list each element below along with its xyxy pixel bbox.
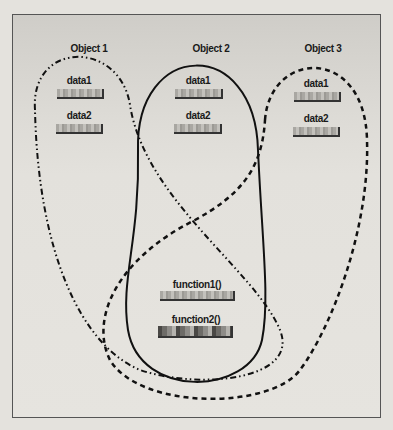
function2-label: function2() [172,314,220,325]
object3-data1-slot [294,92,341,102]
function2-slot [158,326,233,338]
object1-title: Object 1 [70,43,107,54]
object3-data1-label: data1 [304,78,329,89]
function1-slot [160,291,235,301]
object2-data1-label: data1 [186,75,211,86]
object2-data2-slot [174,124,222,134]
object2-data2-label: data2 [186,110,211,121]
object1-data2-label: data2 [67,110,92,121]
object1-data1-label: data1 [67,75,92,86]
function1-label: function1() [173,279,221,290]
object-boundaries [0,0,393,430]
object3-data2-slot [293,127,340,137]
object1-data2-slot [56,124,103,134]
object2-data1-slot [175,89,223,99]
object3-title: Object 3 [304,43,341,54]
object2-title: Object 2 [192,43,229,54]
object1-data1-slot [57,89,104,99]
object3-data2-label: data2 [304,113,329,124]
